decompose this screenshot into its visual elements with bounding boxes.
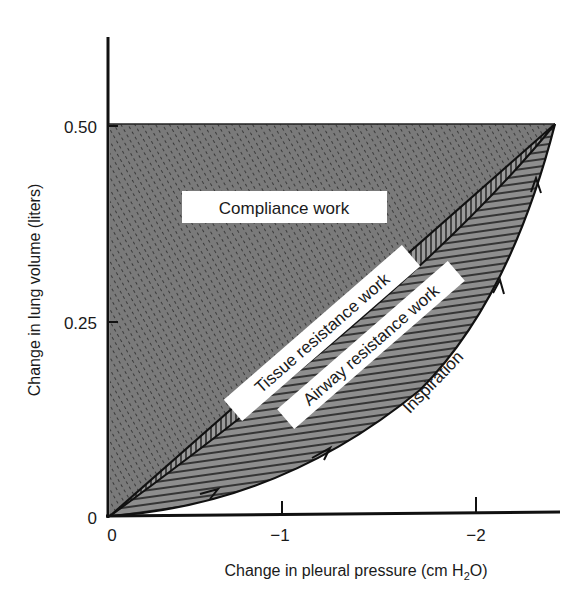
x-tick-label-1: −1 [270,526,289,545]
work-of-breathing-diagram: 0.50 0.25 0 0 −1 −2 Change in pleural pr… [0,0,582,605]
y-tick-label-0: 0 [88,509,97,528]
y-tick-label-050: 0.50 [64,118,97,137]
y-tick-label-025: 0.25 [64,314,97,333]
y-axis-title: Change in lung volume (liters) [26,184,43,397]
x-axis-title: Change in pleural pressure (cm H2O) [224,562,487,582]
x-axis [106,512,560,516]
compliance-label: Compliance work [219,199,350,218]
x-tick-label-2: −2 [466,526,485,545]
x-tick-label-0: 0 [107,526,116,545]
